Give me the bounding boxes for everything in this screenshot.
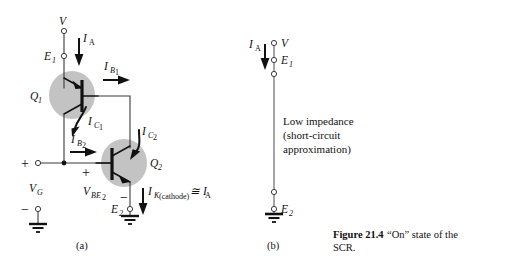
sign-vbe2-plus: + [82, 165, 90, 180]
label-ia-sub-b: A [255, 44, 261, 53]
terminal-e2-b [271, 206, 276, 211]
label-ic2-sub2: 2 [153, 133, 157, 142]
note-line-3: approximation) [283, 143, 351, 156]
note-line-2: (short-circuit [283, 129, 340, 142]
terminal-e1-a [61, 53, 66, 58]
current-ik-arrow [139, 188, 148, 215]
label-ib2-sub2: 2 [82, 141, 86, 150]
label-v-a: V [59, 15, 68, 27]
caption-title: “On” state of the [387, 229, 458, 240]
sign-vbe2-minus: − [120, 190, 128, 205]
label-ib1-sub2: 1 [115, 68, 119, 77]
ground-symbol-cathode [121, 216, 139, 224]
gate-junction-node [62, 161, 67, 166]
terminal-e1-b [271, 57, 276, 62]
sign-gate-plus: + [21, 156, 29, 171]
caption-figure-number: Figure 21.4 [333, 229, 384, 240]
label-v-b: V [281, 37, 290, 49]
terminal-v-a [61, 28, 66, 33]
label-e1-sub-a: 1 [52, 56, 56, 65]
figure-scr-on-state: V E 1 I A Q 1 [0, 0, 511, 267]
label-ic1: I [87, 115, 93, 127]
label-vbe2-sub: BE [91, 191, 101, 200]
panel-a: V E 1 I A Q 1 [21, 15, 211, 252]
label-vbe2-sub2: 2 [102, 193, 106, 202]
figure-caption: Figure 21.4 “On” state of the SCR. [333, 229, 458, 253]
scr-circuit-diagram: V E 1 I A Q 1 [0, 0, 511, 267]
panel-b-label: (b) [267, 240, 280, 252]
terminal-mid-lower-b [271, 189, 276, 194]
sign-gate-minus: − [21, 202, 29, 217]
terminal-mid-upper-b [271, 71, 276, 76]
terminal-e2-a [127, 206, 132, 211]
label-ik-cathode: (cathode) [159, 192, 190, 201]
label-ia-b: I [248, 38, 254, 50]
label-vg-sub: G [37, 188, 43, 197]
label-ib2: I [70, 133, 76, 145]
label-q1-sub: 1 [38, 96, 42, 105]
label-ia-sub-a: A [89, 38, 95, 47]
terminal-vg-plus [35, 160, 40, 165]
terminal-vg-minus [35, 206, 40, 211]
label-e2-sub-b: 2 [289, 209, 293, 218]
label-e1-a: E [43, 50, 51, 62]
label-ia-a: I [82, 32, 88, 44]
label-ib1: I [103, 60, 109, 72]
label-e1-b: E [280, 54, 288, 66]
note-line-1: Low impedance [283, 115, 354, 127]
label-e2-a: E [110, 203, 118, 215]
ground-symbol-b [265, 214, 283, 222]
q1-shading [49, 71, 95, 119]
label-ic1-sub2: 1 [99, 123, 103, 132]
terminal-v-b [271, 40, 276, 45]
ground-symbol-vg [29, 224, 47, 232]
label-ic2: I [141, 125, 147, 137]
current-ia-arrow-b [261, 44, 270, 70]
panel-a-label: (a) [76, 240, 88, 252]
panel-b: V E 1 E 2 I A Low impedance (short-circu… [248, 37, 354, 252]
caption-line-2: SCR. [333, 242, 355, 253]
label-ik-approx-sub: A [205, 191, 211, 200]
label-q2-sub: 2 [158, 163, 162, 172]
label-e1-sub-b: 1 [289, 60, 293, 69]
label-ik: I [147, 185, 153, 197]
